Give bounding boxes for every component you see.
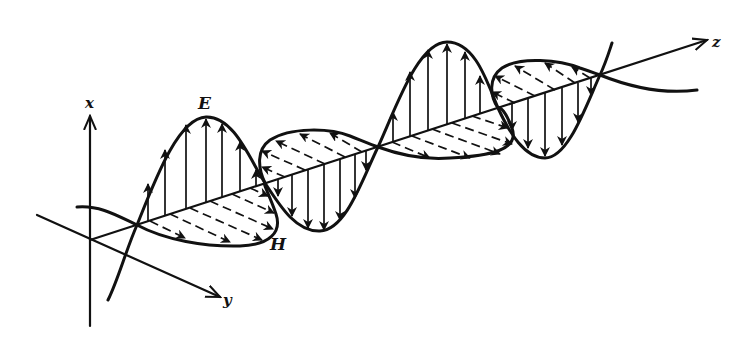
e-field-label: E — [197, 93, 212, 113]
h-field-vectors — [150, 63, 590, 242]
h-field-label: H — [269, 234, 287, 254]
e-field-curve — [108, 42, 612, 300]
z-axis — [90, 40, 707, 240]
x-axis-label: x — [84, 94, 95, 112]
em-wave-diagram: x y z E H — [0, 0, 746, 350]
em-wave-svg: x y z E H — [0, 0, 746, 350]
z-axis-label: z — [711, 33, 721, 51]
y-axis-label: y — [222, 291, 233, 309]
